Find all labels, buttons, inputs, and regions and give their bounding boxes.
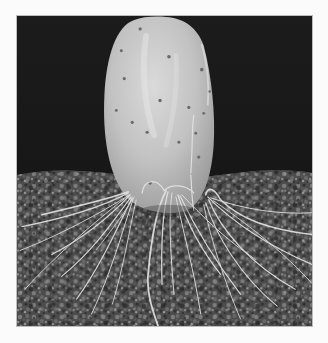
photo-frame: Grayscale photograph of a prickly pear c… [16,15,313,327]
cactus-roots-photo [17,16,312,326]
